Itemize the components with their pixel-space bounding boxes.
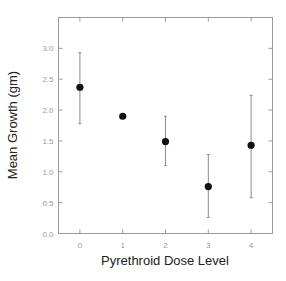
data-point-group [119,113,126,120]
data-point-marker [205,183,212,190]
data-point-group [76,53,83,124]
x-tick-label: 0 [78,241,83,250]
x-axis-title: Pyrethroid Dose Level [101,253,229,268]
data-points [76,53,254,218]
chart: 0.00.51.01.52.02.53.0 01234 Pyrethroid D… [0,0,286,281]
y-tick-label: 2.5 [42,75,54,84]
y-tick-label: 1.0 [42,168,54,177]
y-tick-label: 1.5 [42,137,54,146]
data-point-group [162,116,169,165]
y-tick-label: 3.0 [42,44,54,53]
y-tick-label: 0.5 [42,199,54,208]
x-tick-label: 1 [120,241,125,250]
data-point-group [205,155,212,218]
y-tick-label: 0.0 [42,230,54,239]
data-point-marker [119,113,126,120]
y-axis-ticks: 0.00.51.01.52.02.53.0 [42,44,272,238]
data-point-marker [76,84,83,91]
y-axis-title: Mean Growth (gm) [5,71,20,179]
x-tick-label: 2 [163,241,168,250]
data-point-marker [162,138,169,145]
data-point-marker [248,142,255,149]
x-tick-label: 3 [206,241,211,250]
x-tick-label: 4 [249,241,254,250]
data-point-group [248,95,255,197]
y-tick-label: 2.0 [42,106,54,115]
